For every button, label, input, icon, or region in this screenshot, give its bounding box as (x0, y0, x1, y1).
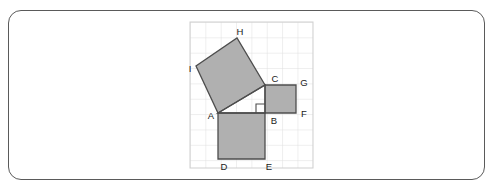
geometry-figure: A B C D E F G H I (0, 0, 497, 194)
vertex-label-A: A (208, 110, 215, 121)
vertex-label-F: F (301, 108, 307, 119)
square-on-leg-AB (218, 113, 265, 159)
vertex-label-D: D (221, 161, 228, 172)
vertex-label-H: H (237, 26, 244, 37)
vertex-label-C: C (272, 73, 279, 84)
vertex-label-G: G (300, 77, 307, 88)
square-on-leg-BC (265, 85, 296, 113)
vertex-label-E: E (266, 161, 272, 172)
vertex-label-B: B (271, 115, 277, 126)
screenshot-root: A B C D E F G H I (0, 0, 497, 194)
geometry-figure-svg: A B C D E F G H I (0, 0, 497, 194)
vertex-label-I: I (189, 63, 192, 74)
